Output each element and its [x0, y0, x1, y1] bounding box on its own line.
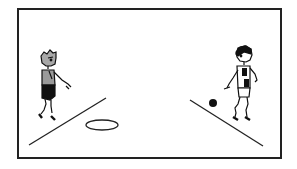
- target-ring-icon: [86, 120, 118, 130]
- right-child-figure: [224, 46, 257, 120]
- left-boundary-line: [29, 98, 106, 145]
- left-child-figure: [39, 50, 71, 120]
- ball-icon: [209, 99, 217, 107]
- scene: [0, 0, 297, 169]
- right-boundary-line: [190, 100, 263, 146]
